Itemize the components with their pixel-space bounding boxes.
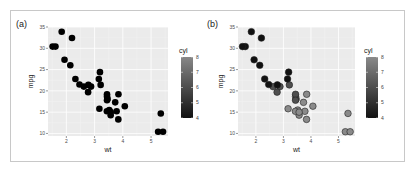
data-point [285, 69, 292, 76]
data-point [69, 35, 76, 42]
y-tick-label: 20 [39, 88, 45, 94]
scatter-plot-a: 2345101520253035wtmpgcyl45678 [0, 0, 205, 171]
y-axis-title: mpg [217, 75, 225, 89]
data-point [248, 28, 255, 35]
data-point [284, 76, 291, 83]
data-point [265, 81, 272, 88]
y-tick-label: 25 [229, 66, 235, 72]
data-point [97, 82, 104, 89]
panel-a: (a) 2345101520253035wtmpgcyl45678 [0, 0, 205, 171]
legend-tick-label: 4 [381, 115, 384, 121]
data-point [67, 62, 74, 69]
data-point [286, 82, 293, 89]
y-tick-label: 35 [229, 24, 235, 30]
data-point [96, 105, 103, 112]
data-point [107, 109, 114, 116]
x-tick-label: 3 [282, 138, 285, 144]
y-tick-label: 10 [229, 130, 235, 136]
data-point [85, 89, 92, 96]
data-point [292, 91, 299, 98]
x-axis-title: wt [104, 146, 112, 153]
x-tick-label: 5 [150, 138, 153, 144]
data-point [113, 108, 120, 115]
data-point [85, 82, 92, 89]
data-point [160, 128, 167, 135]
legend-tick-label: 6 [381, 84, 384, 90]
y-tick-label: 20 [229, 88, 235, 94]
x-tick-label: 2 [65, 138, 68, 144]
x-axis-title: wt [292, 146, 300, 153]
y-tick-label: 10 [39, 130, 45, 136]
y-tick-label: 30 [39, 45, 45, 51]
data-point [256, 62, 263, 69]
data-point [261, 76, 268, 83]
data-point [310, 103, 317, 110]
legend-title: cyl [179, 47, 188, 55]
y-tick-label: 30 [229, 45, 235, 51]
data-point [104, 97, 111, 104]
data-point [115, 116, 122, 123]
data-point [303, 91, 310, 98]
data-point [285, 105, 292, 112]
data-point [76, 81, 83, 88]
x-tick-label: 3 [93, 138, 96, 144]
y-tick-label: 25 [39, 66, 45, 72]
data-point [112, 99, 119, 106]
data-point [96, 76, 103, 83]
data-point [251, 56, 258, 63]
legend-tick-label: 5 [381, 99, 384, 105]
panel-b: (b) 2345101520253035wtmpgcyl45678 [195, 0, 413, 171]
data-point [58, 28, 65, 35]
data-point [104, 91, 111, 98]
data-point [115, 91, 122, 98]
data-point [292, 97, 299, 104]
data-point [303, 116, 310, 123]
data-point [274, 82, 281, 89]
x-tick-label: 2 [255, 138, 258, 144]
legend-tick-label: 8 [381, 54, 384, 60]
legend-title: cyl [364, 47, 373, 55]
data-point [158, 110, 165, 117]
data-point [296, 109, 303, 116]
x-tick-label: 5 [337, 138, 340, 144]
legend-tick-label: 7 [381, 69, 384, 75]
data-point [300, 99, 307, 106]
data-point [122, 103, 129, 110]
data-point [239, 43, 246, 50]
x-tick-label: 4 [310, 138, 313, 144]
y-tick-label: 15 [229, 109, 235, 115]
data-point [97, 69, 104, 76]
data-point [61, 56, 68, 63]
data-point [258, 35, 265, 42]
scatter-plot-b: 2345101520253035wtmpgcyl45678 [195, 0, 413, 171]
x-tick-label: 4 [121, 138, 124, 144]
y-tick-label: 35 [39, 24, 45, 30]
data-point [72, 76, 79, 83]
data-point [345, 110, 352, 117]
y-axis-title: mpg [27, 75, 35, 89]
data-point [274, 89, 281, 96]
data-point [49, 43, 56, 50]
y-tick-label: 15 [39, 109, 45, 115]
data-point [347, 128, 354, 135]
